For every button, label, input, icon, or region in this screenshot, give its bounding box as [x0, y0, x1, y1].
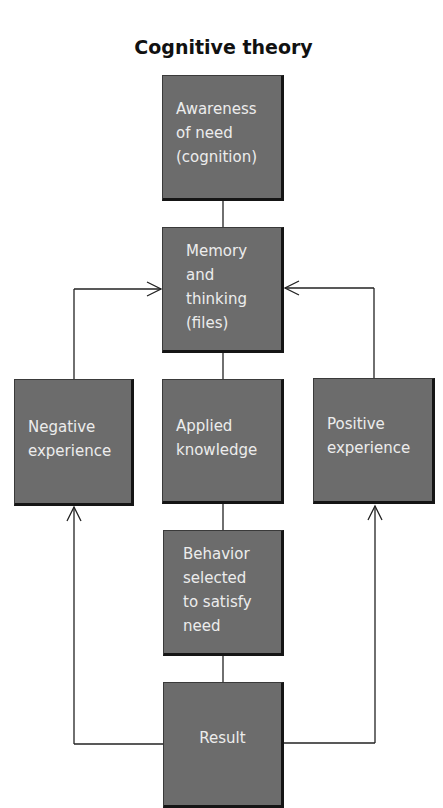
node-text-line: Memory — [186, 239, 247, 263]
node-text-line: selected — [183, 566, 246, 590]
node-text-line: thinking — [186, 287, 247, 311]
node-text-line: experience — [327, 436, 410, 460]
node-text-line: of need — [176, 121, 233, 145]
node-text-line: (files) — [186, 311, 228, 335]
node-applied-knowledge: Applied knowledge — [162, 379, 284, 504]
node-text-line: experience — [28, 439, 111, 463]
node-positive-experience: Positive experience — [313, 378, 435, 504]
node-text-line: Positive — [327, 412, 385, 436]
node-text-line: Result — [199, 726, 245, 750]
node-text-line: Behavior — [183, 542, 250, 566]
node-behavior-selected: Behavior selected to satisfy need — [163, 530, 284, 656]
node-memory-and-thinking: Memory and thinking (files) — [162, 227, 284, 353]
node-awareness-of-need: Awareness of need (cognition) — [162, 75, 284, 201]
node-text-line: and — [186, 263, 214, 287]
node-result: Result — [163, 682, 284, 808]
node-text-line: (cognition) — [176, 145, 257, 169]
node-text-line: knowledge — [176, 438, 257, 462]
node-text-line: need — [183, 614, 221, 638]
node-text-line: Applied — [176, 414, 232, 438]
node-negative-experience: Negative experience — [14, 379, 134, 506]
node-text-line: Awareness — [176, 97, 257, 121]
node-text-line: to satisfy — [183, 590, 252, 614]
node-text-line: Negative — [28, 415, 95, 439]
